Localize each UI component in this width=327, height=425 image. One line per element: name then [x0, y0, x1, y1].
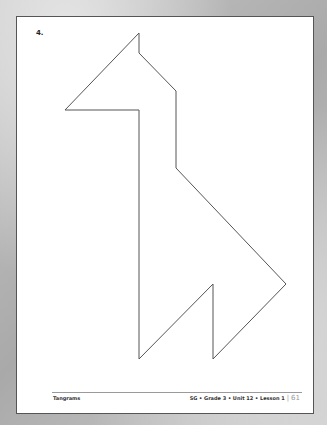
footer-separator: | [287, 394, 289, 402]
page-number: 61 [291, 394, 300, 402]
footer-course-info: SG • Grade 3 • Unit 12 • Lesson 1 [190, 395, 285, 401]
tangram-shape-outline [0, 0, 327, 425]
footer-title: Tangrams [53, 395, 80, 401]
footer-divider [52, 392, 302, 393]
footer-info: SG • Grade 3 • Unit 12 • Lesson 1 | 61 [190, 394, 300, 402]
